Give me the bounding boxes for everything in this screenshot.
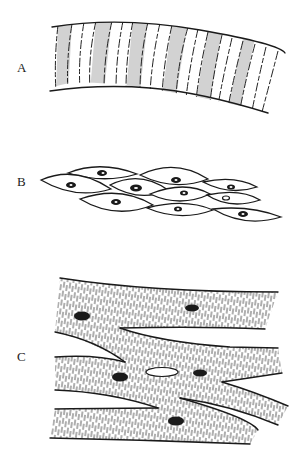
panel-b-smooth-muscle (41, 167, 281, 221)
panel-label-c: C (17, 349, 26, 364)
panel-a-skeletal-muscle (50, 18, 285, 113)
panel-label-a: A (17, 60, 27, 75)
panel-c-cardiac-muscle (50, 278, 288, 444)
panel-label-b: B (17, 174, 26, 189)
muscle-tissue-figure: A B C (0, 0, 303, 468)
